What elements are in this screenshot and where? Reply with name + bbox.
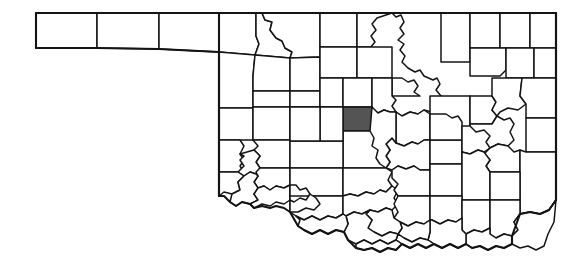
county-delaware[interactable] [534,48,556,78]
county-dewey[interactable] [253,91,290,107]
county-beaver[interactable] [159,13,219,52]
county-oklahoma-highlighted[interactable] [343,107,372,131]
county-kingfisher[interactable] [320,78,343,107]
county-adair[interactable] [520,78,556,118]
county-mayes[interactable] [506,48,534,78]
county-ellis[interactable] [219,52,255,108]
oklahoma-county-map-figure: Oklahoma county map Outline map of the s… [0,0,573,261]
county-hughes[interactable] [430,164,462,196]
county-blaine-south[interactable] [290,107,320,141]
county-texas[interactable] [97,13,159,49]
county-payne[interactable] [372,78,396,113]
county-okmulgee[interactable] [430,114,462,140]
county-craig[interactable] [500,13,530,48]
county-nowata[interactable] [470,13,500,48]
county-leflore[interactable] [520,150,556,214]
county-roger-mills[interactable] [219,108,253,140]
county-garfield[interactable] [320,47,357,78]
county-pittsburg[interactable] [462,150,490,200]
county-blaine[interactable] [290,91,320,107]
county-ottawa[interactable] [530,13,556,48]
county-washington[interactable] [441,13,470,62]
county-rogers[interactable] [470,48,506,76]
county-grant[interactable] [320,13,357,47]
county-sequoyah[interactable] [526,118,556,152]
county-garfield-south[interactable] [320,107,343,141]
oklahoma-map-svg [0,0,573,261]
county-noble[interactable] [357,47,392,78]
county-caddo[interactable] [290,141,343,168]
county-kiowa[interactable] [254,168,290,190]
county-woodward[interactable] [253,55,290,91]
county-custer[interactable] [253,107,290,140]
county-beckham[interactable] [219,140,244,172]
county-logan[interactable] [343,78,372,107]
county-atoka[interactable] [462,200,490,234]
county-seminole[interactable] [392,166,430,196]
county-latimer[interactable] [490,172,520,200]
county-okfuskee[interactable] [430,140,462,164]
county-cimarron[interactable] [36,13,97,48]
county-harper[interactable] [219,13,259,55]
county-coal[interactable] [430,196,462,224]
county-major[interactable] [290,57,320,91]
